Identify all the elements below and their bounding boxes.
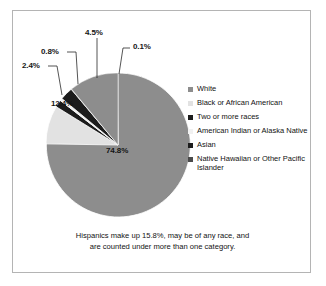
pct-label-two-or-more-races: 2.4% <box>22 61 40 70</box>
legend-label: Native Hawaiian or Other Pacific Islande… <box>197 154 308 172</box>
legend-item-american-indian-or-alaska-native[interactable]: American Indian or Alaska Native <box>188 126 308 135</box>
pct-label-asian: 4.5% <box>85 28 103 37</box>
legend-item-native-hawaiian-or-other-pacific-islander[interactable]: Native Hawaiian or Other Pacific Islande… <box>188 154 308 172</box>
leader-line-two-or-more-races <box>48 66 62 95</box>
legend-label: Black or African American <box>197 98 282 107</box>
leader-line-native-hawaiian <box>119 48 130 74</box>
legend-label: Asian <box>197 140 216 149</box>
pct-label-american-indian: 0.8% <box>41 47 59 56</box>
legend-swatch-icon <box>188 87 193 92</box>
legend-item-asian[interactable]: Asian <box>188 140 308 149</box>
legend-item-two-or-more-races[interactable]: Two or more races <box>188 112 308 121</box>
footnote-line-1: Hispanics make up 15.8%, may be of any r… <box>20 230 305 241</box>
legend-swatch-icon <box>188 157 193 162</box>
pct-label-white: 74.8% <box>106 146 128 155</box>
footnote-line-2: are counted under more than one category… <box>20 241 305 252</box>
legend-swatch-icon <box>188 143 193 148</box>
footnote: Hispanics make up 15.8%, may be of any r… <box>20 230 305 252</box>
legend-item-black-or-african-american[interactable]: Black or African American <box>188 98 308 107</box>
pct-label-native-hawaiian: 0.1% <box>133 42 151 51</box>
leader-line-american-indian <box>67 52 78 84</box>
legend: White Black or African American Two or m… <box>188 84 308 177</box>
pct-label-black-or-african-american: 12.4% <box>51 99 73 108</box>
legend-label: White <box>197 84 216 93</box>
legend-swatch-icon <box>188 129 193 134</box>
legend-label: Two or more races <box>197 112 259 121</box>
legend-swatch-icon <box>188 101 193 106</box>
legend-swatch-icon <box>188 115 193 120</box>
legend-label: American Indian or Alaska Native <box>197 126 307 135</box>
legend-item-white[interactable]: White <box>188 84 308 93</box>
pie-chart-figure: 2.4% 0.8% 4.5% 0.1% 12.4% 74.8% White Bl… <box>0 0 326 286</box>
